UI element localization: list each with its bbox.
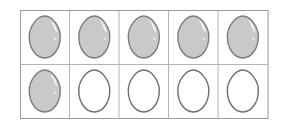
cell-r1c3[interactable] [128, 16, 159, 58]
egg-grid-figure [0, 0, 283, 125]
egg-filled-icon [79, 16, 110, 58]
cell-r2c5[interactable] [227, 70, 258, 112]
cell-r1c4[interactable] [178, 16, 209, 58]
egg-filled-icon [178, 16, 209, 58]
cell-r1c5[interactable] [227, 16, 258, 58]
egg-filled-icon [29, 16, 60, 58]
cell-r2c2[interactable] [79, 70, 110, 112]
egg-empty-icon [79, 70, 110, 112]
egg-filled-icon [128, 16, 159, 58]
cell-r2c4[interactable] [178, 70, 209, 112]
cell-r2c3[interactable] [128, 70, 159, 112]
egg-empty-icon [178, 70, 209, 112]
egg-filled-icon [29, 70, 60, 112]
cell-r1c2[interactable] [79, 16, 110, 58]
egg-empty-icon [227, 70, 258, 112]
egg-empty-icon [128, 70, 159, 112]
egg-grid-canvas [0, 0, 283, 125]
cell-r2c1[interactable] [29, 70, 60, 112]
egg-filled-icon [227, 16, 258, 58]
cell-r1c1[interactable] [29, 16, 60, 58]
